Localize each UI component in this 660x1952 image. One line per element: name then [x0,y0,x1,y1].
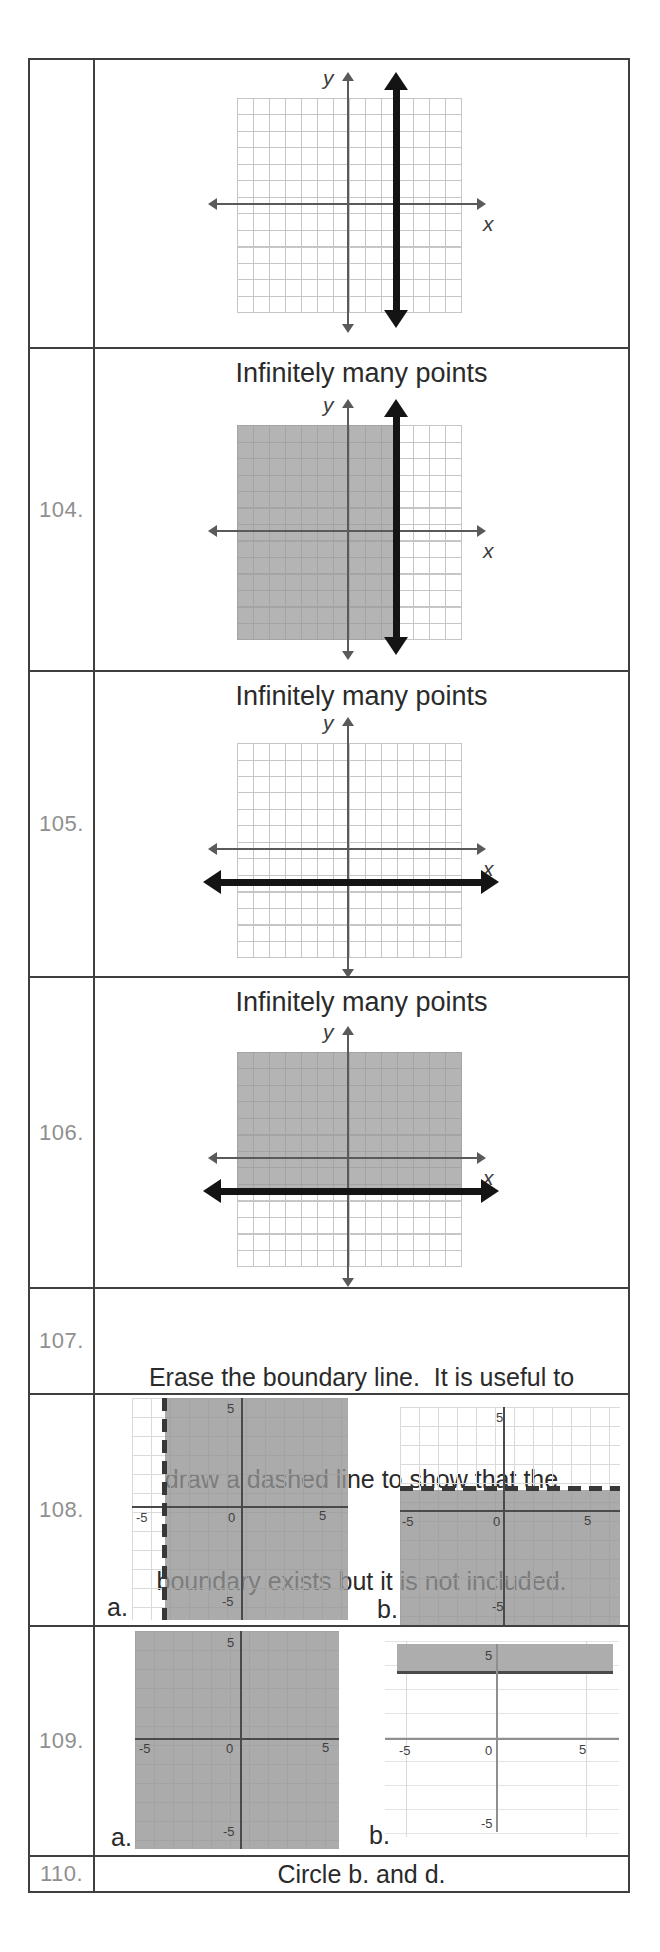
row-109-content: -5 0 5 5 -5 -5 0 5 5 -5 a. b. [95,1625,628,1855]
bold-line-down-arrow-icon [384,637,408,655]
row-107-content: Erase the boundary line. It is useful to… [95,1287,628,1393]
y-axis-label: y [323,66,334,90]
graph-108a: -5 0 5 5 -5 [132,1398,348,1620]
row-blank-content: y x [95,60,628,347]
row-109-number-cell: 109. [30,1625,95,1855]
tick-label: 5 [485,1648,492,1663]
tick-label: -5 [399,1743,411,1758]
x-axis [385,1738,619,1740]
bold-horizontal-line [219,879,483,886]
x-axis-left-arrow-icon [208,198,217,210]
graph-top-vertical-line: y x [195,72,505,344]
x-axis [135,1738,339,1740]
bold-line-up-arrow-icon [384,72,408,90]
caption-104: Infinitely many points [95,358,628,389]
row-number: 106. [39,1120,84,1146]
y-axis [241,1398,243,1620]
shaded-band [397,1644,613,1674]
tick-label: 5 [579,1742,586,1757]
y-axis-up-arrow-icon [342,72,354,81]
bold-vertical-line [393,415,400,639]
row-number: 104. [39,497,84,523]
graph-104-shaded-left: y x [195,399,505,671]
y-axis [347,1034,349,1280]
graph-108b: -5 0 5 5 -5 [400,1407,620,1625]
y-axis-up-arrow-icon [342,1026,354,1035]
tick-label: 5 [319,1508,326,1523]
row-105-content: Infinitely many points y x [95,670,628,976]
shaded-region [237,1052,462,1192]
bold-line-right-arrow-icon [481,1179,499,1203]
graph-109b: -5 0 5 5 -5 [385,1641,619,1837]
row-108-number-cell: 108. [30,1393,95,1625]
grid [237,98,462,313]
tick-label: 5 [584,1513,591,1528]
x-axis-right-arrow-icon [477,843,486,855]
shaded-region [135,1631,339,1849]
x-axis-left-arrow-icon [208,525,217,537]
sublabel-b: b. [369,1821,390,1850]
row-number: 105. [39,811,84,837]
bold-horizontal-line [219,1188,483,1195]
row-110-number-cell: 110. [30,1855,95,1891]
x-axis-right-arrow-icon [477,198,486,210]
y-axis-down-arrow-icon [342,324,354,333]
tick-label: -5 [481,1816,493,1831]
y-axis-label: y [323,711,334,735]
tick-label: 5 [496,1410,503,1425]
row-107-number-cell: 107. [30,1287,95,1393]
row-105-number-cell: 105. [30,670,95,976]
bold-line-down-arrow-icon [384,310,408,328]
row-108-content: -5 0 5 5 -5 -5 0 5 5 -5 a. b. [95,1393,628,1625]
sublabel-b: b. [377,1595,398,1624]
tick-label: -5 [136,1510,148,1525]
bold-vertical-line [393,88,400,312]
dashed-boundary-line [400,1486,620,1491]
tick-label: -5 [222,1594,234,1609]
y-axis-label: y [323,393,334,417]
y-axis-down-arrow-icon [342,651,354,660]
y-axis [347,725,349,971]
y-axis [503,1407,505,1625]
row-blank-number-cell [30,60,95,347]
row-106-number-cell: 106. [30,976,95,1287]
sublabel-a: a. [111,1823,132,1852]
tick-label: 0 [226,1741,233,1756]
grid [237,743,462,958]
row-number: 109. [39,1728,84,1754]
row-104-number-cell: 104. [30,347,95,670]
row-106-content: Infinitely many points y x [95,976,628,1287]
row-number: 108. [39,1497,84,1523]
tick-label: 5 [322,1740,329,1755]
caption-105: Infinitely many points [95,681,628,712]
tick-label: 0 [228,1510,235,1525]
answer-110-text: Circle b. and d. [95,1857,628,1891]
y-axis [496,1644,498,1832]
y-axis-up-arrow-icon [342,399,354,408]
y-axis-label: y [323,1020,334,1044]
caption-106: Infinitely many points [95,987,628,1018]
x-axis-label: x [483,539,494,563]
tick-label: 5 [227,1635,234,1650]
row-number: 107. [39,1328,84,1354]
tick-label: 5 [227,1401,234,1416]
row-number: 110. [40,1861,83,1887]
row-110-content: Circle b. and d. [95,1855,628,1891]
answer-table: y x 104. Infinitely many points y [28,58,630,1893]
x-axis-label: x [483,212,494,236]
x-axis-left-arrow-icon [208,1152,217,1164]
shaded-region [237,425,397,640]
x-axis-left-arrow-icon [208,843,217,855]
graph-109a: -5 0 5 5 -5 [135,1631,339,1849]
row-104-content: Infinitely many points y x [95,347,628,670]
x-axis-right-arrow-icon [477,525,486,537]
tick-label: -5 [139,1741,151,1756]
bold-line-left-arrow-icon [203,870,221,894]
bold-line-left-arrow-icon [203,1179,221,1203]
tick-label: 0 [485,1743,492,1758]
bold-line-up-arrow-icon [384,399,408,417]
tick-label: -5 [223,1824,235,1839]
graph-105-horizontal-line: y x [195,717,505,989]
tick-label: 0 [493,1514,500,1529]
y-axis [240,1631,242,1849]
